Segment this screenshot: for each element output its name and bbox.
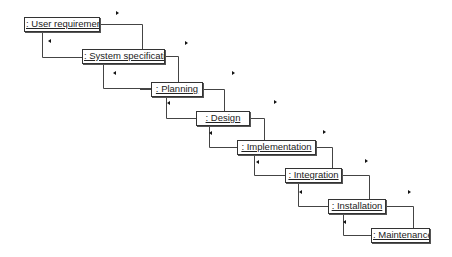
object-user-requirements[interactable]: : User requirements xyxy=(24,17,100,32)
object-label: : Implementation xyxy=(241,141,311,152)
object-label: : System specification xyxy=(84,50,165,61)
forward-arrow-icon xyxy=(365,159,368,163)
forward-arrow-icon xyxy=(185,41,188,45)
object-design[interactable]: : Design xyxy=(196,111,250,126)
object-label: : Installation xyxy=(332,200,383,211)
object-integration[interactable]: : Integration xyxy=(285,168,342,183)
back-arrow-icon xyxy=(343,220,346,224)
object-label: : Planning xyxy=(156,83,198,94)
object-label: : Integration xyxy=(288,169,338,180)
back-arrow-icon xyxy=(167,101,170,105)
object-system-specification[interactable]: : System specification xyxy=(82,49,165,64)
back-arrow-icon xyxy=(209,131,212,135)
object-label: : Maintenance xyxy=(373,229,430,240)
object-planning[interactable]: : Planning xyxy=(151,82,203,97)
object-implementation[interactable]: : Implementation xyxy=(237,140,316,155)
back-arrow-icon xyxy=(256,160,259,164)
forward-arrow-icon xyxy=(274,100,277,104)
object-label: : User requirements xyxy=(26,18,100,29)
forward-arrow-icon xyxy=(408,190,411,194)
object-label: : Design xyxy=(206,112,241,123)
back-arrow-icon xyxy=(299,190,302,194)
forward-arrow-icon xyxy=(323,130,326,134)
forward-arrow-icon xyxy=(116,11,119,15)
forward-arrow-icon xyxy=(232,71,235,75)
back-arrow-icon xyxy=(48,39,51,43)
object-installation[interactable]: : Installation xyxy=(328,199,386,214)
back-arrow-icon xyxy=(113,71,116,75)
connector-lines xyxy=(0,0,452,257)
object-maintenance[interactable]: : Maintenance xyxy=(371,228,430,243)
